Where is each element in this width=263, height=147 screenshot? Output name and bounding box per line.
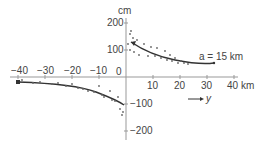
x-tick-m20: −20 (64, 66, 81, 76)
x-tick-m30: −30 (37, 66, 54, 76)
y-tick-m200: −200 (130, 126, 153, 136)
y-tick-100: 100 (107, 45, 124, 55)
curve-annotation: a = 15 km (199, 52, 243, 62)
x-tick-30: 30 (201, 81, 212, 91)
y-tick-m100: −100 (130, 99, 153, 109)
x-tick-m40: −40 (11, 66, 28, 76)
x-tick-20: 20 (174, 81, 185, 91)
curve-end-marker (213, 62, 215, 64)
x-axis-variable: y (206, 94, 211, 104)
x-tick-10: 10 (147, 81, 158, 91)
y-tick-0: 0 (116, 67, 122, 77)
y-tick-200: 200 (107, 18, 124, 28)
x-tick-m10: −10 (90, 66, 107, 76)
arrow-right-icon (200, 97, 204, 101)
x-tick-40: 40 km (227, 81, 254, 91)
scatter-points-positive (127, 30, 189, 65)
y-axis-unit: cm (118, 6, 131, 16)
fit-curve-negative (18, 82, 124, 105)
curve-start-marker-neg (16, 80, 20, 84)
